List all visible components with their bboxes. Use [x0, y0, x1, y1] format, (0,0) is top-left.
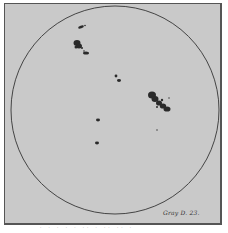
sun-drawing [0, 0, 228, 233]
south-spot-lower [95, 142, 99, 145]
artist-signature: Gray D. 23. [163, 209, 200, 216]
figure-caption: · · · · · ·· · ·· ·· · [40, 225, 134, 230]
north-small-group [78, 25, 86, 30]
south-spot-upper [96, 119, 100, 122]
east-single-spot [156, 129, 157, 130]
center-pair [115, 75, 121, 82]
east-large-group [148, 92, 171, 112]
solar-limb [11, 6, 219, 214]
northwest-large-group [74, 40, 90, 55]
